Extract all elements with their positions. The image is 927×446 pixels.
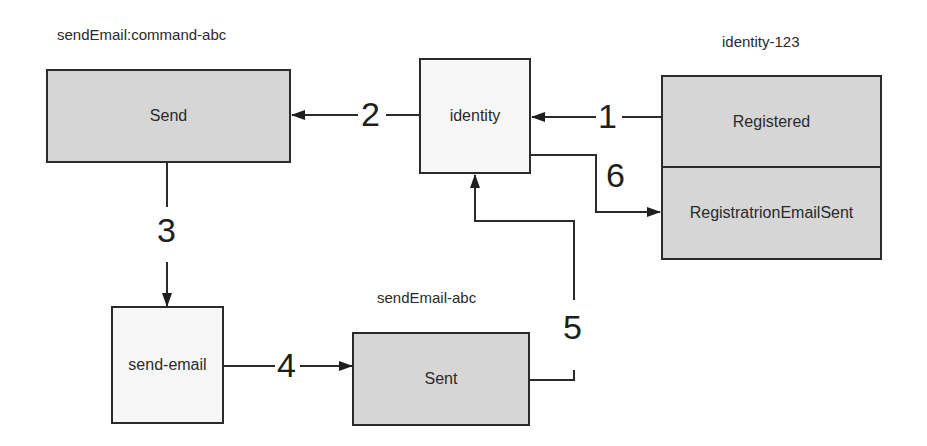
step-label-1: 1 — [598, 99, 617, 133]
event-send-label: Send — [150, 107, 187, 125]
event-sent-label: Sent — [425, 370, 458, 388]
event-registration-email-sent-label: RegistratrionEmailSent — [690, 204, 854, 222]
event-send: Send — [46, 69, 291, 163]
stream-identity-123: Registered RegistratrionEmailSent — [661, 75, 882, 260]
step-label-3: 3 — [157, 213, 176, 247]
component-send-email-label: send-email — [128, 356, 206, 374]
arrow-step-5-head — [475, 175, 574, 300]
component-identity-label: identity — [450, 107, 501, 125]
component-identity: identity — [419, 58, 531, 174]
arrow-step-5 — [529, 370, 574, 380]
stream-caption-identity: identity-123 — [722, 33, 800, 50]
component-send-email: send-email — [111, 306, 224, 424]
step-label-6: 6 — [606, 158, 625, 192]
arrow-step-6 — [530, 155, 660, 212]
event-registered-label: Registered — [733, 113, 810, 131]
event-registration-email-sent: RegistratrionEmailSent — [663, 168, 880, 258]
event-registered: Registered — [663, 77, 880, 168]
event-sent: Sent — [352, 332, 530, 426]
step-label-2: 2 — [361, 97, 380, 131]
step-label-5: 5 — [563, 310, 582, 344]
stream-caption-send-command: sendEmail:command-abc — [57, 26, 226, 43]
stream-caption-send-email: sendEmail-abc — [377, 289, 476, 306]
step-label-4: 4 — [277, 348, 296, 382]
